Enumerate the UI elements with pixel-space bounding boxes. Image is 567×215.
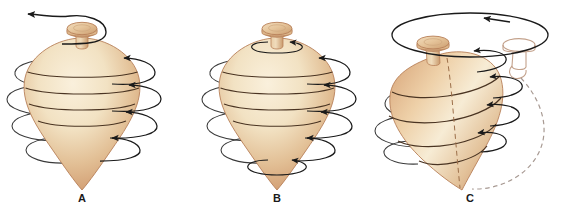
panel-label-b: B [273,192,281,204]
spinning-top-figure: A [0,0,567,215]
panel-label-c: C [466,192,474,204]
panel-label-a: A [78,192,86,204]
figure-root: A [0,0,567,215]
